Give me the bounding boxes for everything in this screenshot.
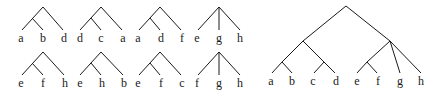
leaf-label: a <box>18 31 24 45</box>
leaf-label: f <box>180 31 184 45</box>
leaf-label: a <box>268 74 274 88</box>
leaf-label: a <box>135 31 141 45</box>
large-tree: a b c d e f g h <box>268 6 424 88</box>
small-tree-2: d c a <box>77 7 126 45</box>
leaf-label: h <box>418 74 424 88</box>
leaf-label: b <box>121 76 127 90</box>
leaf-label: g <box>397 74 403 88</box>
leaf-label: e <box>77 76 82 90</box>
leaf-label: e <box>135 76 140 90</box>
leaf-label: g <box>216 31 222 45</box>
leaf-label: e <box>18 76 23 90</box>
leaf-label: e <box>194 31 199 45</box>
small-tree-7: e f c <box>135 52 184 90</box>
leaf-label: f <box>376 74 380 88</box>
leaf-label: b <box>40 31 46 45</box>
leaf-label: h <box>237 76 243 90</box>
leaf-label: b <box>289 74 295 88</box>
leaf-label: h <box>99 76 105 90</box>
leaf-label: g <box>216 76 222 90</box>
leaf-label: c <box>310 74 315 88</box>
leaf-label: f <box>195 76 199 90</box>
small-tree-8: f g h <box>195 52 243 90</box>
leaf-label: d <box>333 74 339 88</box>
small-tree-1: a b d <box>18 7 67 45</box>
leaf-label: c <box>98 31 103 45</box>
leaf-label: c <box>179 76 184 90</box>
leaf-label: d <box>158 31 164 45</box>
leaf-label: a <box>120 31 126 45</box>
leaf-label: e <box>354 74 359 88</box>
leaf-label: f <box>41 76 45 90</box>
leaf-label: f <box>159 76 163 90</box>
small-tree-4: e g h <box>194 7 243 45</box>
small-tree-6: e h b <box>77 52 127 90</box>
small-tree-3: a d f <box>135 7 184 45</box>
leaf-label: h <box>237 31 243 45</box>
small-tree-5: e f h <box>18 52 68 90</box>
tree-diagram: a b d d c a a d f e g h e f h e <box>0 0 443 97</box>
leaf-label: d <box>61 31 67 45</box>
leaf-label: d <box>77 31 83 45</box>
leaf-label: h <box>62 76 68 90</box>
